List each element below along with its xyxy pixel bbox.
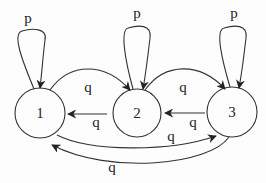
self-loop-2: p — [124, 5, 150, 89]
edge-3-to-2-label: q — [189, 114, 197, 130]
edge-2-to-3-label: q — [179, 79, 187, 95]
self-loop-3: p — [220, 5, 246, 88]
edge-3-to-1-label: q — [108, 159, 116, 175]
edge-1-to-2: q — [50, 69, 130, 95]
node-2: 2 — [113, 89, 161, 137]
node-3-label: 3 — [228, 104, 236, 120]
edge-2-to-1-label: q — [92, 114, 100, 130]
node-2-label: 2 — [133, 105, 141, 121]
self-loop-1-label: p — [24, 10, 32, 26]
edge-2-to-1: q — [68, 114, 107, 130]
edge-1-to-3-label: q — [167, 128, 175, 144]
node-3: 3 — [207, 87, 257, 137]
node-1-label: 1 — [36, 105, 44, 121]
edge-2-to-3: q — [145, 69, 225, 95]
edge-1-to-2-label: q — [84, 79, 92, 95]
node-1: 1 — [15, 88, 65, 138]
self-loop-3-label: p — [230, 5, 238, 21]
self-loop-1: p — [18, 10, 45, 89]
edge-1-to-3: q — [57, 128, 216, 148]
self-loop-2-label: p — [133, 5, 141, 21]
state-diagram: 1 2 3 p p p q q q q q — [0, 0, 266, 183]
